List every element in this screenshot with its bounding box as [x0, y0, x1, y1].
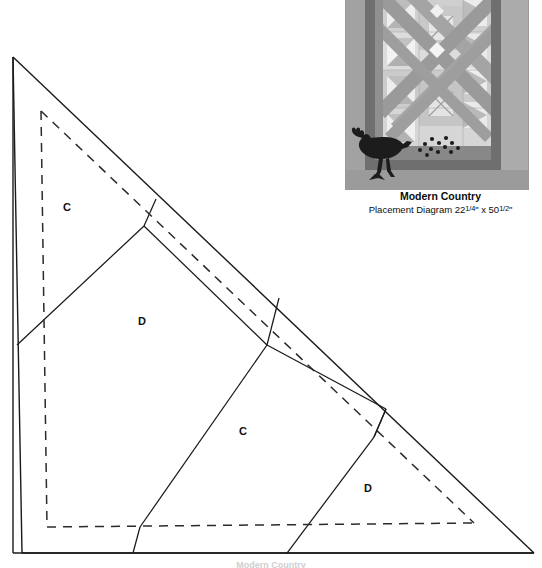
- quilt-illustration-svg: [345, 0, 529, 190]
- placement-width-fraction: 1/4: [465, 203, 475, 215]
- placement-separator: x: [479, 204, 489, 215]
- quilt-illustration: [345, 0, 529, 190]
- placement-height-fraction: 1/2: [499, 203, 509, 215]
- bottom-cutoff-caption: Modern Country: [0, 560, 542, 568]
- dash-left: [41, 111, 47, 527]
- placement-width-whole: 22: [455, 204, 466, 215]
- quilt-border-right-band: [501, 0, 529, 190]
- placement-height-unit: ": [509, 204, 512, 215]
- seam-tick-upper: [144, 199, 156, 226]
- quilt-bottom-band: [345, 170, 529, 190]
- quilt-border-left-band: [345, 0, 365, 190]
- pattern-page: C D C D Modern Country: [0, 0, 542, 568]
- placement-title: Modern Country: [343, 190, 538, 203]
- placement-caption: Modern Country Placement Diagram 221/4" …: [343, 190, 538, 217]
- piece-label-d-lower: D: [364, 483, 372, 494]
- placement-height-whole: 50: [489, 204, 500, 215]
- template-left-inner-edge: [13, 57, 22, 553]
- seam-diag-mid-left-foot: [133, 527, 140, 553]
- seam-diag-upper-left: [17, 226, 144, 345]
- piece-label-c-upper: C: [63, 202, 71, 213]
- piece-label-d-mid: D: [138, 316, 146, 327]
- placement-diagram: Modern Country Placement Diagram 221/4" …: [345, 0, 542, 228]
- interior-seam-lines: [17, 199, 386, 553]
- placement-subtitle: Placement Diagram 221/4" x 501/2": [343, 204, 538, 217]
- dash-bottom: [47, 523, 474, 527]
- seam-diag-lower-left: [287, 437, 374, 553]
- placement-subtitle-prefix: Placement Diagram: [369, 204, 455, 215]
- piece-label-c-lower: C: [239, 426, 247, 437]
- seam-diag-mid-left: [140, 345, 267, 527]
- quilt-bottom-frame: [365, 160, 501, 170]
- seam-diag-upper-right: [144, 226, 267, 345]
